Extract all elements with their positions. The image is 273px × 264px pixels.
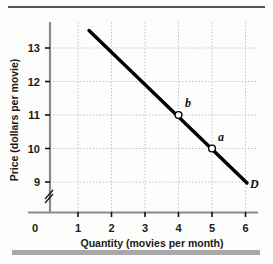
data-point-a — [209, 145, 216, 152]
x-tick-label-2: 2 — [108, 222, 114, 234]
y-tick-label-11: 11 — [28, 109, 40, 121]
y-tick-label-13: 13 — [28, 42, 40, 54]
x-tick-label-3: 3 — [142, 222, 148, 234]
x-tick-label-1: 1 — [75, 222, 81, 234]
gridlines-vertical — [78, 22, 246, 212]
demand-chart-svg: 13 12 11 10 9 0 1 2 3 4 5 6 b a D Quanti… — [0, 0, 273, 264]
x-tick-label-4: 4 — [175, 222, 182, 234]
data-point-b — [175, 112, 182, 119]
data-point-b-label: b — [185, 96, 191, 110]
demand-curve-label: D — [249, 177, 259, 191]
y-tick-label-12: 12 — [28, 76, 40, 88]
y-tick-label-10: 10 — [28, 143, 40, 155]
y-tick-label-9: 9 — [34, 176, 40, 188]
demand-curve-figure: 13 12 11 10 9 0 1 2 3 4 5 6 b a D Quanti… — [0, 0, 273, 264]
bottom-divider-rule — [12, 250, 260, 255]
data-point-a-label: a — [218, 130, 224, 144]
x-tick-label-0: 0 — [32, 222, 38, 234]
x-tick-label-6: 6 — [242, 222, 248, 234]
x-tick-label-5: 5 — [209, 222, 215, 234]
x-axis-title: Quantity (movies per month) — [81, 237, 224, 249]
demand-curve-line — [89, 31, 247, 184]
y-axis-title: Price (dollars per movie) — [8, 59, 20, 182]
